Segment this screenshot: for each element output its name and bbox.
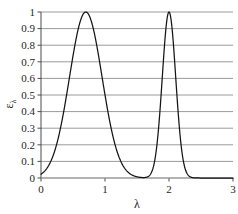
ytick-label-0.9: 0.9 xyxy=(21,22,35,34)
ytick-label-0.1: 0.1 xyxy=(21,155,35,167)
emissivity-vs-wavelength-chart: 00.10.20.30.40.50.60.70.80.91 0123 ελ λ xyxy=(0,0,238,214)
ytick-label-0.6: 0.6 xyxy=(21,72,35,84)
y-axis-tick-labels: 00.10.20.30.40.50.60.70.80.91 xyxy=(21,6,35,184)
xtick-label-1: 1 xyxy=(102,183,108,195)
ytick-label-0: 0 xyxy=(30,172,36,184)
ytick-label-0.4: 0.4 xyxy=(21,105,35,117)
x-axis-title: λ xyxy=(134,197,140,211)
ytick-label-0.3: 0.3 xyxy=(21,122,35,134)
ytick-label-0.8: 0.8 xyxy=(21,39,35,51)
ytick-label-0.5: 0.5 xyxy=(21,89,35,101)
ytick-label-0.2: 0.2 xyxy=(21,139,35,151)
chart-container: 00.10.20.30.40.50.60.70.80.91 0123 ελ λ xyxy=(0,0,238,214)
xtick-label-0: 0 xyxy=(38,183,44,195)
chart-background xyxy=(0,0,238,214)
xtick-label-3: 3 xyxy=(230,183,236,195)
xtick-label-2: 2 xyxy=(166,183,172,195)
ytick-label-0.7: 0.7 xyxy=(21,56,35,68)
ytick-label-1: 1 xyxy=(30,6,36,18)
